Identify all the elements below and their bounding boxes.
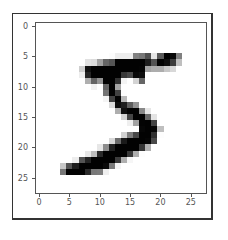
x-tick-label: 15 <box>125 198 135 207</box>
y-tick <box>32 117 36 118</box>
x-tick <box>160 193 161 197</box>
x-tick <box>130 193 131 197</box>
x-tick <box>69 193 70 197</box>
x-tick-label: 0 <box>36 198 41 207</box>
x-tick <box>39 193 40 197</box>
y-tick-label: 5 <box>8 52 28 61</box>
x-tick <box>100 193 101 197</box>
plot-axes: 0510152025 0510152025 <box>35 22 207 194</box>
x-tick-label: 5 <box>67 198 72 207</box>
y-tick-label: 15 <box>8 113 28 122</box>
heatmap-cell <box>200 187 206 193</box>
y-tick <box>32 178 36 179</box>
y-tick <box>32 87 36 88</box>
y-tick-label: 10 <box>8 82 28 91</box>
y-tick <box>32 26 36 27</box>
y-tick-label: 0 <box>8 22 28 31</box>
heatmap-image <box>36 23 206 193</box>
y-tick <box>32 56 36 57</box>
y-tick-label: 25 <box>8 173 28 182</box>
y-tick-label: 20 <box>8 143 28 152</box>
x-tick-label: 25 <box>186 198 196 207</box>
x-tick-label: 10 <box>95 198 105 207</box>
x-tick-label: 20 <box>155 198 165 207</box>
y-tick <box>32 147 36 148</box>
x-tick <box>191 193 192 197</box>
